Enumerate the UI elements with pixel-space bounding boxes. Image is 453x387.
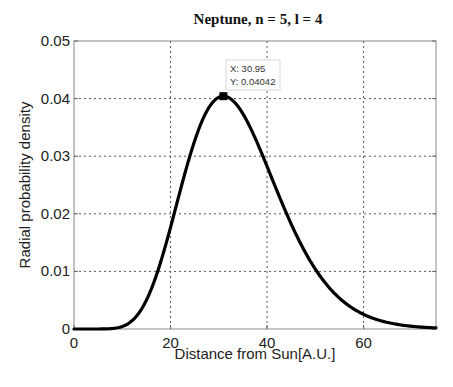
- y-tick-label: 0.01: [41, 262, 70, 279]
- chart-title: Neptune, n = 5, l = 4: [194, 11, 323, 27]
- datatip-x-value: X: 30.95: [230, 63, 265, 74]
- x-tick-label: 60: [355, 334, 372, 351]
- y-tick-label: 0.03: [41, 147, 70, 164]
- y-tick-label: 0.05: [41, 32, 70, 49]
- chart-figure: Neptune, n = 5, l = 4 00.010.020.030.040…: [0, 0, 453, 387]
- datatip[interactable]: X: 30.95 Y: 0.04042: [219, 60, 280, 100]
- y-tick-label: 0: [62, 320, 70, 337]
- y-axis-label: Radial probability density: [16, 101, 33, 268]
- datatip-y-value: Y: 0.04042: [230, 76, 275, 87]
- x-axis-label: Distance from Sun[A.U.]: [175, 345, 336, 362]
- data-series-line: [74, 96, 436, 329]
- x-tick-label: 0: [70, 334, 78, 351]
- datatip-marker[interactable]: [219, 92, 227, 100]
- y-tick-label: 0.04: [41, 90, 70, 107]
- y-tick-label: 0.02: [41, 205, 70, 222]
